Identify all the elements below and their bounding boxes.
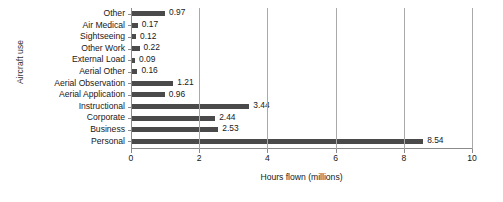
x-axis-tick-label: 4 xyxy=(265,153,270,163)
category-label: Aerial Application xyxy=(22,89,128,101)
bar-row: 0.17 xyxy=(131,20,472,32)
y-axis-tick xyxy=(128,83,131,84)
category-label: Instructional xyxy=(22,101,128,113)
bar-chart: Aircraft use OtherAir MedicalSightseeing… xyxy=(0,0,503,202)
bar xyxy=(132,46,140,51)
bar-value-label: 0.96 xyxy=(169,89,185,101)
bar-value-label: 8.54 xyxy=(427,135,443,147)
y-axis-tick xyxy=(128,25,131,26)
bar-value-label: 0.17 xyxy=(142,19,158,31)
bar xyxy=(132,34,136,39)
bar-rows: 0.970.170.120.220.090.161.210.963.442.44… xyxy=(131,8,472,147)
x-axis-tick-label: 0 xyxy=(129,153,134,163)
bar xyxy=(132,116,215,121)
y-axis-tick xyxy=(128,107,131,108)
bar-row: 0.16 xyxy=(131,66,472,78)
y-axis-tick xyxy=(128,14,131,15)
y-axis-tick xyxy=(128,118,131,119)
bar-row: 0.96 xyxy=(131,89,472,101)
gridline xyxy=(199,8,200,149)
gridline xyxy=(472,8,473,149)
category-label: Business xyxy=(22,124,128,136)
x-axis-title: Hours flown (millions) xyxy=(131,172,472,182)
bar xyxy=(132,58,135,63)
x-axis-tick-label: 2 xyxy=(197,153,202,163)
category-label: Sightseeing xyxy=(22,31,128,43)
bar-value-label: 0.09 xyxy=(139,54,155,66)
y-axis-tick xyxy=(128,72,131,73)
category-label: Other Work xyxy=(22,43,128,55)
bar xyxy=(132,69,137,74)
y-axis-tick xyxy=(128,37,131,38)
category-label: Personal xyxy=(22,136,128,148)
x-axis-line xyxy=(131,148,473,149)
bar-row: 8.54 xyxy=(131,136,472,148)
bar-value-label: 0.22 xyxy=(144,42,160,54)
bar-row: 3.44 xyxy=(131,101,472,113)
gridline xyxy=(404,8,405,149)
category-label: Aerial Observation xyxy=(22,78,128,90)
category-label-column: OtherAir MedicalSightseeingOther WorkExt… xyxy=(22,8,128,147)
category-label: Corporate xyxy=(22,112,128,124)
bar-value-label: 2.44 xyxy=(219,112,235,124)
bar-value-label: 0.12 xyxy=(140,31,156,43)
bar-row: 0.22 xyxy=(131,43,472,55)
plot-area: 0.970.170.120.220.090.161.210.963.442.44… xyxy=(131,8,472,149)
bar xyxy=(132,139,423,144)
bar xyxy=(132,81,173,86)
y-axis-tick xyxy=(128,141,131,142)
bar-row: 0.12 xyxy=(131,31,472,43)
bar xyxy=(132,92,165,97)
category-label: External Load xyxy=(22,54,128,66)
bar-row: 2.44 xyxy=(131,112,472,124)
bar-row: 0.97 xyxy=(131,8,472,20)
x-axis-tick-label: 10 xyxy=(467,153,477,163)
x-axis-tick-labels: 0246810 xyxy=(131,153,474,165)
y-axis-tick xyxy=(128,95,131,96)
bar-value-label: 2.53 xyxy=(222,123,238,135)
category-label: Air Medical xyxy=(22,20,128,32)
bar xyxy=(132,23,138,28)
bar-row: 2.53 xyxy=(131,124,472,136)
y-axis-tick xyxy=(128,60,131,61)
bar-row: 1.21 xyxy=(131,78,472,90)
bar-value-label: 0.16 xyxy=(141,65,157,77)
bar xyxy=(132,11,165,16)
x-axis-tick-label: 6 xyxy=(333,153,338,163)
y-axis-tick xyxy=(128,130,131,131)
x-axis-tick-label: 8 xyxy=(401,153,406,163)
y-axis-tick xyxy=(128,49,131,50)
gridline xyxy=(336,8,337,149)
category-label: Aerial Other xyxy=(22,66,128,78)
bar-row: 0.09 xyxy=(131,54,472,66)
bar-value-label: 0.97 xyxy=(169,7,185,19)
bar xyxy=(132,127,218,132)
gridline xyxy=(267,8,268,149)
bar-value-label: 1.21 xyxy=(177,77,193,89)
category-label: Other xyxy=(22,8,128,20)
bar xyxy=(132,104,249,109)
